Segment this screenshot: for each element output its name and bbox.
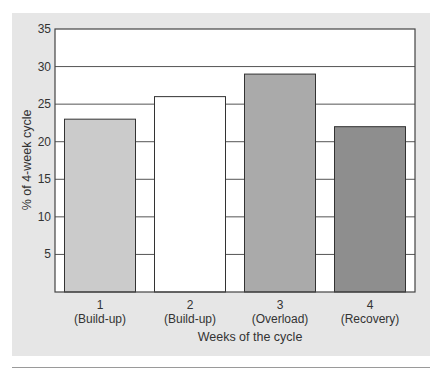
x-tick-number: 3 <box>277 298 284 312</box>
bar-week-1 <box>65 119 136 292</box>
y-axis-label: % of 4-week cycle <box>20 110 34 211</box>
x-tick-phase: (Overload) <box>252 312 309 326</box>
x-axis-label: Weeks of the cycle <box>198 330 303 344</box>
bottom-divider <box>12 367 430 368</box>
x-tick-number: 2 <box>187 298 194 312</box>
y-tick-labels: 5101520253035 <box>38 22 52 261</box>
bar-week-2 <box>155 97 226 292</box>
bar-chart: 5101520253035 1(Build-up)2(Build-up)3(Ov… <box>0 0 441 370</box>
x-tick-labels: 1(Build-up)2(Build-up)3(Overload)4(Recov… <box>74 298 399 326</box>
y-tick-label: 35 <box>38 22 52 36</box>
x-tick-number: 4 <box>367 298 374 312</box>
y-tick-label: 20 <box>38 135 52 149</box>
y-tick-label: 30 <box>38 60 52 74</box>
bar-week-4 <box>335 127 406 292</box>
x-tick-phase: (Build-up) <box>74 312 126 326</box>
bar-week-3 <box>245 74 316 292</box>
y-tick-label: 15 <box>38 172 52 186</box>
x-tick-phase: (Build-up) <box>164 312 216 326</box>
x-tick-phase: (Recovery) <box>341 312 400 326</box>
y-tick-label: 5 <box>44 247 51 261</box>
x-tick-number: 1 <box>97 298 104 312</box>
y-tick-label: 10 <box>38 210 52 224</box>
y-tick-label: 25 <box>38 97 52 111</box>
